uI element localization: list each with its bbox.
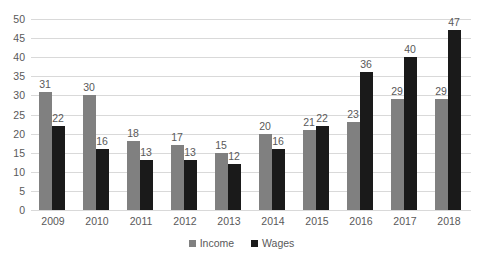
bar-group: 2016 xyxy=(251,19,295,210)
bar-income-2009 xyxy=(39,92,52,210)
bar-wages-2012 xyxy=(184,160,197,210)
bar-group: 2122 xyxy=(295,19,339,210)
bar-income-2017 xyxy=(391,99,404,210)
bar-group: 3122 xyxy=(31,19,75,210)
data-label-wages-2010: 16 xyxy=(92,136,112,146)
bar-wages-2010 xyxy=(96,149,109,210)
x-axis-tick-label: 2018 xyxy=(427,216,471,227)
y-axis-tick-label: 0 xyxy=(19,205,25,215)
bar-group: 2940 xyxy=(383,19,427,210)
data-label-wages-2018: 47 xyxy=(444,17,464,27)
y-axis-tick-label: 25 xyxy=(13,110,25,120)
y-axis: 50454035302520151050 xyxy=(0,0,31,259)
data-label-wages-2012: 13 xyxy=(180,147,200,157)
data-label-wages-2009: 22 xyxy=(48,113,68,123)
bar-income-2013 xyxy=(215,153,228,210)
x-axis-tick-label: 2015 xyxy=(295,216,339,227)
data-label-income-2014: 20 xyxy=(255,121,275,131)
chart-legend: IncomeWages xyxy=(0,238,483,249)
bar-wages-2013 xyxy=(228,164,241,210)
legend-label: Income xyxy=(200,238,234,249)
gridline xyxy=(31,210,471,211)
bar-wages-2016 xyxy=(360,72,373,210)
bar-wages-2017 xyxy=(404,57,417,210)
bar-chart: 50454035302520151050 3122301618131713151… xyxy=(0,0,483,259)
data-label-income-2012: 17 xyxy=(167,132,187,142)
legend-item-wages[interactable]: Wages xyxy=(251,238,294,249)
data-label-wages-2011: 13 xyxy=(136,147,156,157)
y-axis-tick-label: 15 xyxy=(13,148,25,158)
data-label-wages-2015: 22 xyxy=(312,113,332,123)
data-label-income-2010: 30 xyxy=(79,82,99,92)
y-axis-tick-label: 10 xyxy=(13,167,25,177)
data-label-wages-2017: 40 xyxy=(400,44,420,54)
x-axis-tick-label: 2014 xyxy=(251,216,295,227)
bar-wages-2015 xyxy=(316,126,329,210)
bar-group: 2336 xyxy=(339,19,383,210)
x-axis-tick-label: 2010 xyxy=(75,216,119,227)
plot-area: 3122301618131713151220162122233629402947 xyxy=(31,19,471,210)
y-axis-tick-label: 45 xyxy=(13,33,25,43)
bar-group: 1512 xyxy=(207,19,251,210)
data-label-wages-2014: 16 xyxy=(268,136,288,146)
legend-item-income[interactable]: Income xyxy=(189,238,234,249)
bar-group: 1713 xyxy=(163,19,207,210)
bar-income-2010 xyxy=(83,95,96,210)
x-axis-tick-label: 2012 xyxy=(163,216,207,227)
bar-wages-2018 xyxy=(448,30,461,210)
data-label-wages-2016: 36 xyxy=(356,59,376,69)
legend-swatch-icon xyxy=(251,240,258,247)
bar-income-2015 xyxy=(303,130,316,210)
y-axis-tick-label: 50 xyxy=(13,14,25,24)
bar-group: 2947 xyxy=(427,19,471,210)
data-label-income-2011: 18 xyxy=(123,128,143,138)
legend-label: Wages xyxy=(262,238,294,249)
bar-wages-2009 xyxy=(52,126,65,210)
bar-group: 3016 xyxy=(75,19,119,210)
x-axis-tick-label: 2009 xyxy=(31,216,75,227)
x-axis-tick-label: 2013 xyxy=(207,216,251,227)
y-axis-tick-label: 5 xyxy=(19,186,25,196)
data-label-income-2013: 15 xyxy=(211,140,231,150)
x-axis-tick-label: 2017 xyxy=(383,216,427,227)
legend-swatch-icon xyxy=(189,240,196,247)
y-axis-tick-label: 35 xyxy=(13,71,25,81)
x-axis: 2009201020112012201320142015201620172018 xyxy=(31,213,471,233)
x-axis-tick-label: 2011 xyxy=(119,216,163,227)
x-axis-tick-label: 2016 xyxy=(339,216,383,227)
bar-income-2016 xyxy=(347,122,360,210)
y-axis-tick-label: 20 xyxy=(13,129,25,139)
data-label-income-2009: 31 xyxy=(35,79,55,89)
bar-income-2018 xyxy=(435,99,448,210)
y-axis-tick-label: 40 xyxy=(13,52,25,62)
bar-wages-2011 xyxy=(140,160,153,210)
bar-wages-2014 xyxy=(272,149,285,210)
y-axis-tick-label: 30 xyxy=(13,90,25,100)
data-label-wages-2013: 12 xyxy=(224,151,244,161)
bar-group: 1813 xyxy=(119,19,163,210)
